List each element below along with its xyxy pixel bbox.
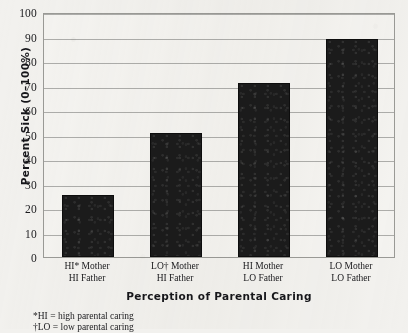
y-tick-label-70: 70 xyxy=(25,81,37,93)
bar-1 xyxy=(150,133,202,257)
y-tick-label-20: 20 xyxy=(25,203,37,215)
y-tick-label-90: 90 xyxy=(25,32,37,44)
bar-2 xyxy=(238,83,290,257)
x-category-label-1: LO† MotherHI Father xyxy=(131,261,219,284)
footnote-block: *HI = high parental caring†LO = low pare… xyxy=(33,311,373,333)
x-axis-title: Perception of Parental Caring xyxy=(43,290,395,302)
bar-3 xyxy=(326,39,378,257)
footnote-1: †LO = low parental caring xyxy=(33,322,373,333)
footnote-0: *HI = high parental caring xyxy=(33,311,373,322)
x-category-label-0: HI* MotherHI Father xyxy=(43,261,131,284)
y-axis-tick-labels: 0102030405060708090100 xyxy=(0,0,41,329)
x-category-label-2: HI MotherLO Father xyxy=(219,261,307,284)
y-tick-label-80: 80 xyxy=(25,56,37,68)
y-tick-label-40: 40 xyxy=(25,154,37,166)
y-tick-label-0: 0 xyxy=(31,252,37,264)
bar-0 xyxy=(62,195,114,258)
plot-area xyxy=(43,13,395,258)
y-tick-label-60: 60 xyxy=(25,105,37,117)
y-tick-label-10: 10 xyxy=(25,228,37,240)
bar-series xyxy=(44,14,394,257)
y-tick-label-50: 50 xyxy=(25,130,37,142)
x-category-label-3: LO MotherLO Father xyxy=(307,261,395,284)
y-tick-label-30: 30 xyxy=(25,179,37,191)
y-tick-label-100: 100 xyxy=(19,7,37,19)
x-axis-category-labels: HI* MotherHI FatherLO† MotherHI FatherHI… xyxy=(43,261,395,289)
